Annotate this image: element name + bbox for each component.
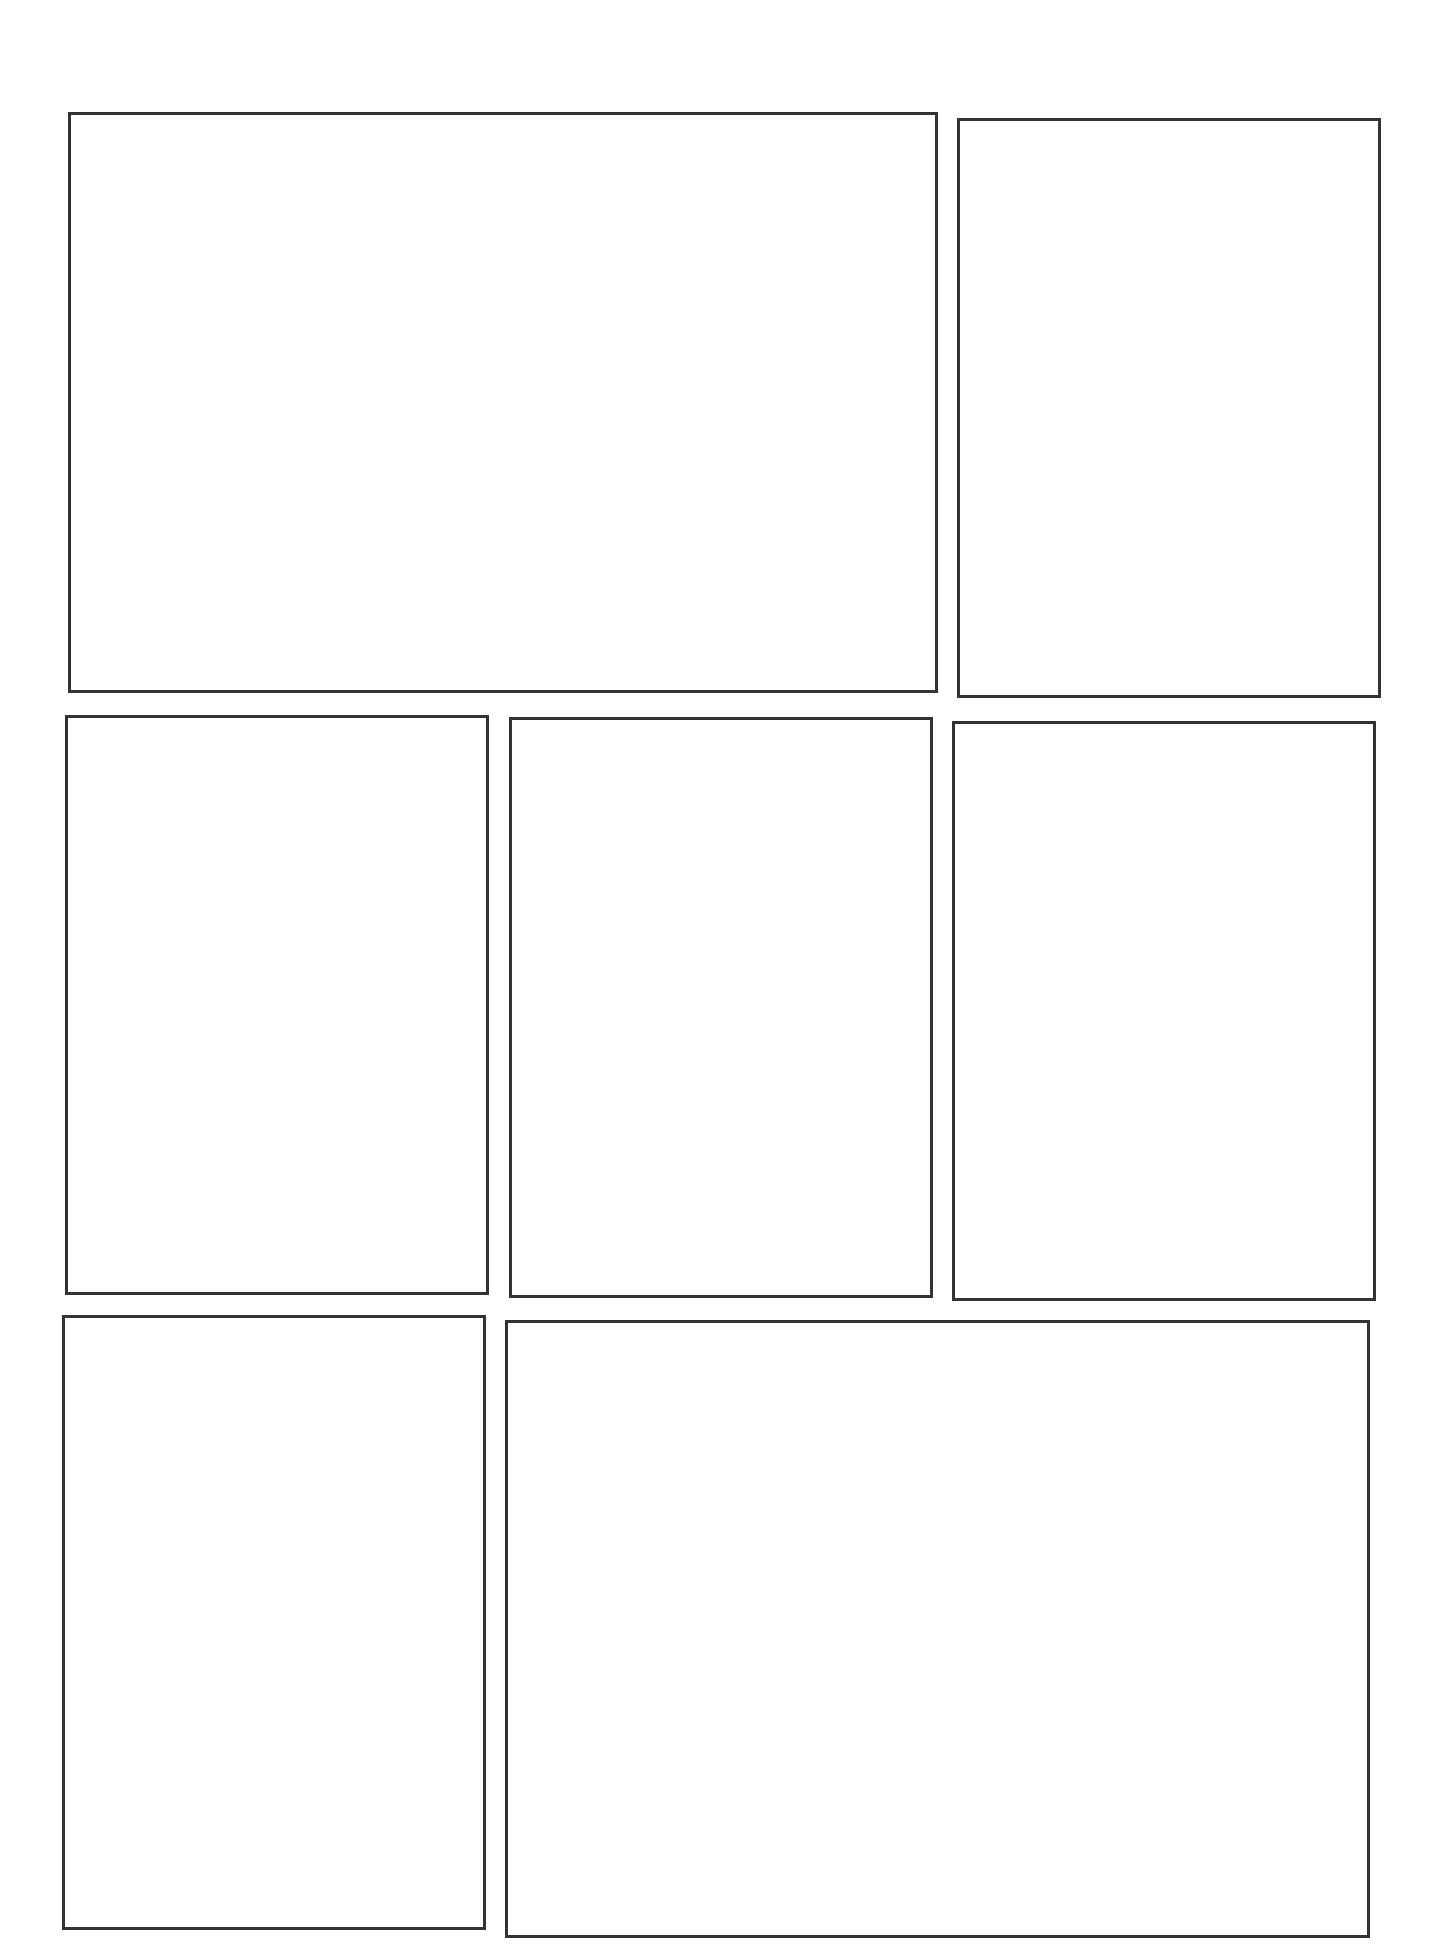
panel-row2-right: [952, 721, 1376, 1301]
panel-row2-center: [509, 717, 933, 1298]
panel-row1-narrow: [957, 118, 1381, 698]
comic-page: [0, 0, 1430, 1954]
panel-row3-narrow: [62, 1315, 486, 1930]
panel-row3-wide: [505, 1320, 1370, 1938]
panel-row1-wide: [68, 112, 938, 693]
panel-row2-left: [65, 715, 489, 1295]
